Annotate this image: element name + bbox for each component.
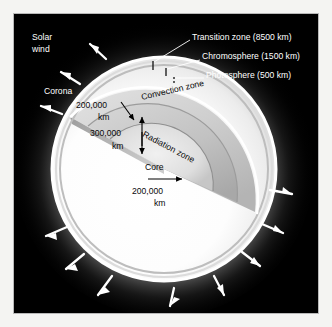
sun-cutaway-diagram: Transition zone (8500 km) Chromosphere (…	[14, 14, 318, 313]
callout-photosphere: Photosphere (500 km)	[206, 70, 291, 80]
dimension-2-value: 300,000	[90, 128, 121, 138]
solar-wind-label-line1: Solar	[32, 32, 52, 42]
solar-wind-label-line2: wind	[31, 44, 50, 54]
figure-page: Transition zone (8500 km) Chromosphere (…	[0, 0, 332, 327]
dimension-3-unit: km	[154, 198, 165, 208]
dimension-2-unit: km	[112, 141, 123, 151]
dimension-1-unit: km	[98, 112, 109, 122]
corona-label: Corona	[44, 86, 72, 96]
callout-chromosphere: Chromosphere (1500 km)	[202, 51, 300, 61]
dimension-1-value: 200,000	[76, 100, 107, 110]
diagram-frame: Transition zone (8500 km) Chromosphere (…	[14, 14, 318, 313]
core-label: Core	[145, 162, 164, 172]
callout-transition-zone: Transition zone (8500 km)	[192, 32, 292, 42]
dimension-3-value: 200,000	[132, 186, 163, 196]
